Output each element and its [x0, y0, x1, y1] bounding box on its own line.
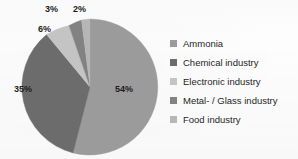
pie-slices: [22, 19, 158, 155]
legend-item-label: Food industry: [183, 114, 241, 125]
legend-item-label: Electronic industry: [183, 76, 261, 87]
pie-label-metal-glass-industry: 3%: [45, 4, 58, 14]
legend-item-chemical-industry[interactable]: Chemical industry: [170, 53, 298, 72]
legend-swatch-icon: [170, 59, 177, 66]
legend-swatch-icon: [170, 40, 177, 47]
chart-legend: Ammonia Chemical industry Electronic ind…: [170, 34, 298, 129]
legend-item-ammonia[interactable]: Ammonia: [170, 34, 298, 53]
legend-item-label: Chemical industry: [183, 57, 259, 68]
pie-chart-figure: 54% 35% 6% 3% 2% Ammonia Chemical indust…: [0, 0, 298, 159]
legend-swatch-icon: [170, 116, 177, 123]
pie-label-food-industry: 2%: [73, 4, 86, 14]
legend-swatch-icon: [170, 78, 177, 85]
legend-item-label: Metal- / Glass industry: [183, 95, 278, 106]
pie-label-electronic-industry: 6%: [38, 24, 51, 34]
pie-plot-area: 54% 35% 6% 3% 2%: [0, 0, 170, 159]
legend-item-label: Ammonia: [183, 38, 223, 49]
legend-swatch-icon: [170, 97, 177, 104]
legend-item-metal-glass-industry[interactable]: Metal- / Glass industry: [170, 91, 298, 110]
legend-item-electronic-industry[interactable]: Electronic industry: [170, 72, 298, 91]
pie-label-chemical-industry: 35%: [14, 84, 32, 94]
pie-label-ammonia: 54%: [115, 84, 133, 94]
pie-svg: [0, 0, 170, 159]
legend-item-food-industry[interactable]: Food industry: [170, 110, 298, 129]
